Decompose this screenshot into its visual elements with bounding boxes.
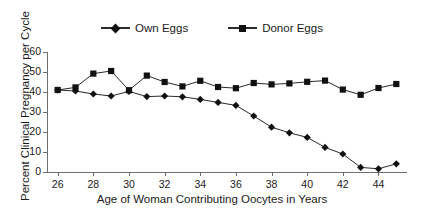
data-point xyxy=(162,79,168,85)
legend-item-donor-eggs[interactable]: Donor Eggs xyxy=(228,22,323,34)
data-point xyxy=(215,84,221,90)
x-tick-label: 26 xyxy=(46,178,70,190)
legend-item-own-eggs[interactable]: Own Eggs xyxy=(101,22,188,34)
y-tick-label: 10 xyxy=(15,145,41,157)
data-point xyxy=(375,85,381,91)
diamond-marker-icon xyxy=(112,25,119,32)
data-point xyxy=(179,93,186,100)
y-tick-label: 30 xyxy=(15,105,41,117)
data-point xyxy=(108,68,114,74)
data-point xyxy=(268,124,275,131)
data-point xyxy=(55,87,61,93)
data-point xyxy=(108,92,115,99)
data-point xyxy=(304,134,311,141)
data-point xyxy=(286,80,292,86)
data-point xyxy=(90,90,97,97)
data-point xyxy=(161,92,168,99)
data-point xyxy=(339,150,346,157)
legend-label-own-eggs: Own Eggs xyxy=(135,22,188,34)
data-point xyxy=(340,87,346,93)
data-point xyxy=(197,78,203,84)
data-point xyxy=(197,96,204,103)
x-tick-label: 38 xyxy=(260,178,284,190)
data-point xyxy=(179,83,185,89)
series-plot xyxy=(47,52,407,177)
x-tick-label: 36 xyxy=(224,178,248,190)
data-point xyxy=(393,160,400,167)
data-point xyxy=(393,81,399,87)
x-tick-label: 30 xyxy=(117,178,141,190)
data-point xyxy=(143,93,150,100)
legend-line-segment xyxy=(246,27,257,28)
data-point xyxy=(233,85,239,91)
x-tick-label: 42 xyxy=(331,178,355,190)
data-point xyxy=(268,81,274,87)
chart-container: Own Eggs Donor Eggs Percent Clinical Pre… xyxy=(0,0,424,220)
data-point xyxy=(322,78,328,84)
x-tick-label: 28 xyxy=(81,178,105,190)
data-point xyxy=(357,164,364,171)
data-point xyxy=(251,80,257,86)
legend-label-donor-eggs: Donor Eggs xyxy=(262,22,323,34)
x-tick-label: 44 xyxy=(366,178,390,190)
data-point xyxy=(126,87,132,93)
data-point xyxy=(144,73,150,79)
plot-area xyxy=(47,52,407,172)
data-point xyxy=(304,79,310,85)
x-tick-label: 34 xyxy=(188,178,212,190)
y-tick-label: 50 xyxy=(15,65,41,77)
y-tick-label: 0 xyxy=(15,165,41,177)
series-line-own-eggs xyxy=(58,90,397,169)
y-tick-label: 20 xyxy=(15,125,41,137)
data-point xyxy=(321,144,328,151)
legend-line-segment xyxy=(228,27,239,28)
data-point xyxy=(90,71,96,77)
data-point xyxy=(375,165,382,172)
square-marker-icon xyxy=(239,25,246,32)
x-axis-title: Age of Woman Contributing Oocytes in Yea… xyxy=(0,193,424,205)
data-point xyxy=(72,84,78,90)
chart-legend: Own Eggs Donor Eggs xyxy=(0,22,424,34)
data-point xyxy=(286,129,293,136)
y-tick-label: 40 xyxy=(15,85,41,97)
data-point xyxy=(214,99,221,106)
data-point xyxy=(250,112,257,119)
y-tick-label: 60 xyxy=(15,45,41,57)
x-tick-label: 40 xyxy=(295,178,319,190)
data-point xyxy=(232,102,239,109)
data-point xyxy=(358,92,364,98)
x-tick-label: 32 xyxy=(153,178,177,190)
